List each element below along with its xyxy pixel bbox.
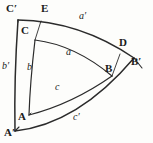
segment-c-to-e [35, 21, 41, 40]
arc-c [29, 76, 112, 115]
arc-b [29, 40, 35, 115]
spherical-triangle-figure: C′ E C D B′ B A A′ a′ a b′ b c c′ [0, 0, 153, 143]
corner-mark-b-prime [134, 58, 142, 68]
arc-a [35, 40, 112, 76]
arc-b-prime [15, 20, 18, 131]
figure-drawing-canvas [0, 0, 153, 143]
arc-c-prime [15, 58, 134, 131]
segment-b-to-d [112, 54, 120, 76]
